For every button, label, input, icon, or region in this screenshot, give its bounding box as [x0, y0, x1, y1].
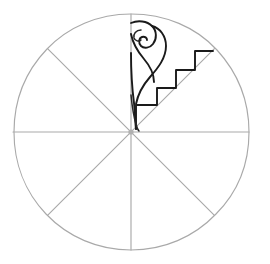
sector-dividers	[13, 14, 249, 250]
figure-canvas: Eight-sector circle with decorated secto…	[0, 0, 270, 264]
circle-sector-figure	[0, 0, 270, 264]
center-hub-dot	[128, 129, 133, 134]
